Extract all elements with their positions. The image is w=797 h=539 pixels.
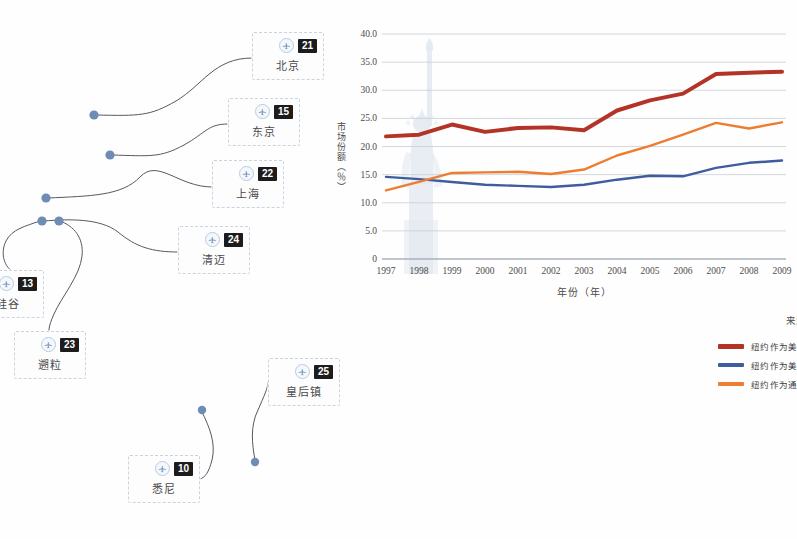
legend-item[interactable]: 纽约作为美国旅行的唯一目的地 (718, 338, 797, 354)
airplane-icon (41, 337, 56, 352)
card-city-name: 东京 (229, 123, 299, 139)
chart-legend: 纽约作为美国旅行的唯一目的地 纽约作为美国的主要目的地 纽约作为通关口岸 (718, 338, 797, 395)
card-number-badge: 24 (224, 233, 243, 247)
page-root: 21 北京 15 东京 22 上海 (0, 0, 797, 539)
x-tick-label: 2003 (575, 266, 594, 276)
card-top: 15 (255, 104, 293, 119)
card-city-name: 皇后镇 (269, 383, 339, 399)
card-top: 25 (295, 364, 333, 379)
legend-color-swatch (718, 344, 744, 349)
legend-item[interactable]: 纽约作为通关口岸 (718, 376, 797, 392)
card-city-name: 北京 (253, 57, 323, 73)
x-tick-label: 2000 (476, 266, 495, 276)
airplane-icon (205, 232, 220, 247)
route-curve-siliconvalley (3, 221, 40, 272)
y-tick-label: 20.0 (360, 142, 377, 152)
x-tick-label: 2008 (740, 266, 759, 276)
airplane-icon (295, 364, 310, 379)
chart-plot-area: 05.010.015.020.025.030.035.040.0 1997199… (382, 34, 786, 259)
flight-route-diagram: 21 北京 15 东京 22 上海 (0, 0, 360, 539)
x-tick-label: 2005 (641, 266, 660, 276)
x-tick-label: 1997 (377, 266, 396, 276)
airplane-icon (255, 104, 270, 119)
card-top: 21 (279, 38, 317, 53)
x-tick-label: 2002 (542, 266, 561, 276)
city-card[interactable]: 13 硅谷 (0, 270, 44, 318)
city-card[interactable]: 22 上海 (212, 160, 284, 208)
card-number-badge: 21 (298, 39, 317, 53)
route-node (54, 216, 63, 225)
card-top: 22 (239, 166, 277, 181)
series-line (386, 122, 782, 190)
y-tick-label: 40.0 (360, 29, 377, 39)
legend-color-swatch (718, 382, 744, 386)
card-number-badge: 23 (60, 338, 79, 352)
card-city-name: 硅谷 (0, 295, 43, 311)
chart-y-axis-label: 市场份额（％） (334, 122, 348, 192)
y-tick-label: 15.0 (360, 170, 377, 180)
route-node (37, 216, 46, 225)
card-city-name: 悉尼 (129, 480, 199, 496)
chart-svg (382, 34, 786, 259)
legend-label: 纽约作为通关口岸 (751, 378, 797, 390)
route-node (105, 150, 114, 159)
card-top: 24 (205, 232, 243, 247)
city-card[interactable]: 23 遡粒 (14, 331, 86, 379)
x-tick-label: 2009 (773, 266, 792, 276)
x-tick-label: 2001 (509, 266, 528, 276)
card-number-badge: 25 (314, 365, 333, 379)
card-top: 23 (41, 337, 79, 352)
route-curve-mekong (49, 221, 82, 338)
card-number-badge: 10 (174, 462, 193, 476)
route-node (251, 458, 259, 466)
x-tick-label: 2006 (674, 266, 693, 276)
airplane-icon (0, 276, 14, 291)
legend-label: 纽约作为美国的主要目的地 (751, 359, 797, 371)
city-card[interactable]: 21 北京 (252, 32, 324, 80)
x-tick-label: 2007 (707, 266, 726, 276)
airplane-icon (239, 166, 254, 181)
card-number-badge: 15 (274, 105, 293, 119)
card-city-name: 清迈 (179, 251, 249, 267)
route-curve-tokyo (112, 124, 228, 156)
city-card[interactable]: 25 皇后镇 (268, 358, 340, 406)
x-tick-label: 2004 (608, 266, 627, 276)
series-line (386, 72, 782, 137)
airplane-icon (279, 38, 294, 53)
city-card[interactable]: 10 悉尼 (128, 455, 200, 503)
card-city-name: 上海 (213, 185, 283, 201)
market-share-line-chart: 市场份额（％） (338, 26, 793, 316)
route-node (41, 193, 50, 202)
chart-source-note: 来源：Office of Travel and Tourism Industri… (786, 313, 797, 327)
route-curve-queenstown (252, 382, 268, 460)
series-lines (386, 72, 782, 191)
route-curve-chiangmai (44, 220, 178, 252)
city-card[interactable]: 24 清迈 (178, 226, 250, 274)
card-city-name: 遡粒 (15, 356, 85, 372)
x-tick-label: 1999 (443, 266, 462, 276)
route-node (89, 110, 98, 119)
y-tick-label: 0 (372, 254, 377, 264)
y-tick-label: 30.0 (360, 85, 377, 95)
grid-lines (382, 34, 786, 259)
legend-label: 纽约作为美国旅行的唯一目的地 (751, 340, 797, 352)
card-top: 10 (155, 461, 193, 476)
route-curve-sydney (200, 412, 213, 479)
route-curve-shanghai (48, 171, 212, 198)
card-top: 13 (0, 276, 37, 291)
x-tick-label: 1998 (410, 266, 429, 276)
route-node (198, 406, 206, 414)
chart-x-axis-label: 年份（年） (382, 284, 786, 299)
card-number-badge: 22 (258, 167, 277, 181)
y-tick-label: 5.0 (365, 226, 377, 236)
legend-item[interactable]: 纽约作为美国的主要目的地 (718, 357, 797, 373)
y-tick-label: 35.0 (360, 57, 377, 67)
y-tick-label: 10.0 (360, 198, 377, 208)
airplane-icon (155, 461, 170, 476)
card-number-badge: 13 (18, 277, 37, 291)
legend-color-swatch (718, 363, 744, 367)
city-card[interactable]: 15 东京 (228, 98, 300, 146)
y-tick-label: 25.0 (360, 113, 377, 123)
